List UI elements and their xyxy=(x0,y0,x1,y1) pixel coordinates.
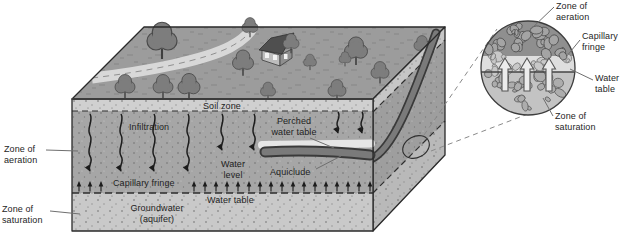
label-capillary-fringe: Capillary fringe xyxy=(113,178,175,189)
groundwater-zones-figure: Zone of aeration Zone of saturation Soil… xyxy=(0,0,633,240)
inset-capillary-arrows xyxy=(499,58,556,91)
label-water-level: Water level xyxy=(214,159,252,180)
inset-label-water-table: Water table xyxy=(595,73,619,94)
label-water-table: Water table xyxy=(207,195,254,206)
label-infiltration: Infiltration xyxy=(129,122,169,133)
label-zone-of-aeration: Zone of aeration xyxy=(4,144,37,165)
label-soil-zone: Soil zone xyxy=(203,101,241,112)
label-groundwater-aquifer: Groundwater (aquifer) xyxy=(117,203,197,224)
inset-label-zone-of-saturation: Zone of saturation xyxy=(555,111,596,132)
label-zone-of-saturation: Zone of saturation xyxy=(2,204,43,225)
inset-magnified-circle xyxy=(479,19,577,117)
inset-label-capillary-fringe: Capillary fringe xyxy=(582,31,618,52)
label-perched-water-table: Perched water table xyxy=(256,116,332,137)
perched-water-band xyxy=(262,144,371,146)
label-aquiclude: Aquiclude xyxy=(270,167,310,178)
inset-label-zone-of-aeration: Zone of aeration xyxy=(556,1,589,22)
